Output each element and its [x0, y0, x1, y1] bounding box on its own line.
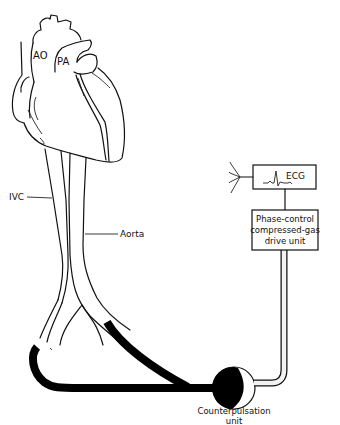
label-ao: AO	[33, 50, 48, 61]
svg-text:IVC: IVC	[9, 192, 24, 202]
label-pa: PA	[57, 56, 69, 67]
svg-text:AO: AO	[33, 50, 48, 61]
svg-text:PA: PA	[57, 56, 69, 67]
gas-line	[254, 250, 284, 383]
svg-text:ECG: ECG	[286, 171, 305, 181]
label-ivc: IVC	[9, 192, 52, 202]
label-aorta: Aorta	[85, 229, 144, 239]
counterpulsation-unit	[212, 367, 255, 409]
svg-text:compressed-gas: compressed-gas	[250, 225, 320, 235]
svg-text:drive unit: drive unit	[265, 236, 306, 246]
heart-illustration	[12, 15, 124, 162]
svg-text:Aorta: Aorta	[120, 229, 144, 239]
svg-text:unit: unit	[226, 416, 243, 425]
cannula-tubes	[33, 322, 213, 388]
ecg-unit: ECG	[253, 165, 316, 189]
svg-text:Phase-control: Phase-control	[256, 214, 314, 224]
label-counterpulsation: Counterpulsation unit	[197, 406, 270, 425]
ecg-leads	[229, 162, 253, 193]
svg-text:Counterpulsation: Counterpulsation	[197, 406, 270, 416]
counterpulsation-diagram: AO PA IVC Aorta Counterpulsation un	[0, 0, 340, 425]
vessels-descending	[40, 149, 130, 350]
drive-unit: Phase-control compressed-gas drive unit	[250, 210, 320, 250]
